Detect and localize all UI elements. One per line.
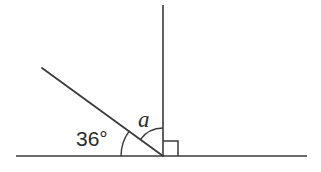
geometry-figure <box>0 0 321 172</box>
label-angle-36: 36° <box>76 128 108 149</box>
right-angle-square <box>163 141 178 156</box>
label-angle-a: a <box>138 108 150 131</box>
diagram-canvas: 36° a <box>0 0 321 172</box>
arc-36-degrees <box>121 131 129 156</box>
